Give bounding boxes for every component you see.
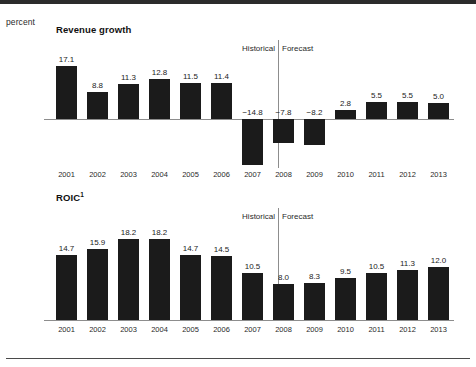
bar-value-2006: 11.4 [202,72,242,81]
chart-panel-revenue-growth: Revenue growth Historical Forecast 17.1 … [0,24,476,184]
bar-roic-2012 [397,270,418,320]
bar-2008 [273,119,294,143]
plot-area-revenue-growth: 17.1 8.8 11.3 12.8 11.5 11.4 −14.8 −7.8 … [44,24,454,184]
bar-value-2009: −8.2 [295,108,335,117]
bar-roic-2013 [428,267,449,320]
bar-value-2002: 8.8 [78,81,118,90]
bar-value-2001: 17.1 [47,55,87,64]
bar-value-2013: 5.0 [419,92,459,101]
bar-roic-2006 [211,256,232,321]
bar-value-roic-2007: 10.5 [233,262,273,271]
bar-value-roic-2013: 12.0 [419,256,459,265]
bar-2012 [397,102,418,119]
plot-area-roic: 14.7 15.9 18.2 18.2 14.7 14.5 10.5 8.0 8… [44,192,454,360]
bar-roic-2010 [335,278,356,320]
bar-roic-2011 [366,273,387,320]
bar-2004 [149,79,170,119]
bar-2011 [366,102,387,119]
bar-roic-2005 [180,255,201,320]
bar-2010 [335,110,356,119]
tick-roic-2013: 2013 [419,325,459,334]
bar-value-roic-2002: 15.9 [78,238,118,247]
bar-value-roic-2006: 14.5 [202,245,242,254]
bar-roic-2007 [242,273,263,320]
bar-roic-2003 [118,239,139,320]
bar-2005 [180,83,201,119]
zero-baseline-2 [44,320,454,321]
tick-2013: 2013 [419,170,459,179]
top-cropped-rule [0,0,476,4]
bar-roic-2009 [304,283,325,320]
bottom-rule [6,358,470,359]
bar-roic-2001 [56,255,77,320]
bar-2003 [118,84,139,119]
bar-roic-2002 [87,249,108,320]
bar-2013 [428,103,449,119]
bar-value-roic-2004: 18.2 [140,228,180,237]
bar-2002 [87,92,108,120]
bar-2007 [242,119,263,165]
bar-value-2010: 2.8 [326,99,366,108]
bar-2006 [211,83,232,119]
bar-roic-2008 [273,284,294,320]
bar-2009 [304,119,325,145]
bar-roic-2004 [149,239,170,320]
chart-panel-roic: ROIC1 Historical Forecast 14.7 15.9 18.2… [0,192,476,360]
bar-2001 [56,66,77,119]
